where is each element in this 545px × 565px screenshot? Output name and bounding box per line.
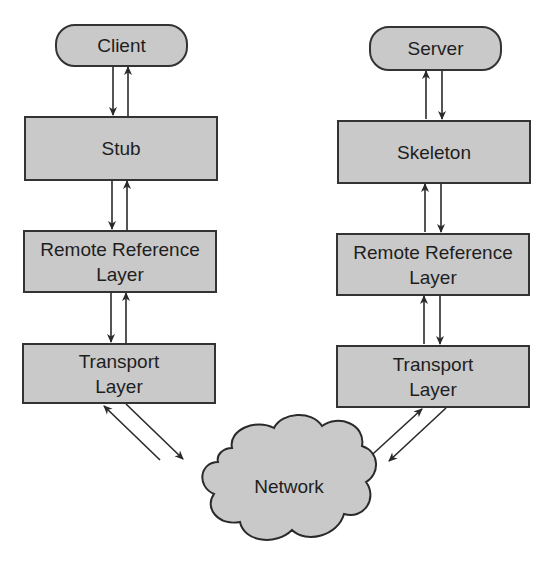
remote-reference-layer-client-label: Remote Reference Layer — [40, 237, 199, 287]
remote-reference-layer-server-label: Remote Reference Layer — [353, 240, 512, 290]
transport-layer-client-label: Transport Layer — [79, 349, 160, 399]
skeleton-node: Skeleton — [337, 120, 531, 184]
server-node: Server — [369, 26, 502, 71]
transport-layer-server-label: Transport Layer — [393, 352, 474, 402]
stub-label: Stub — [101, 136, 140, 161]
network-label: Network — [244, 476, 334, 498]
server-label: Server — [408, 36, 464, 61]
arrow-transport-left-to-network — [126, 404, 183, 459]
transport-layer-server-node: Transport Layer — [336, 345, 530, 408]
arrow-network-to-transport-left — [104, 406, 160, 460]
skeleton-label: Skeleton — [397, 140, 471, 165]
remote-reference-layer-client-node: Remote Reference Layer — [23, 230, 217, 293]
stub-node: Stub — [24, 116, 218, 181]
remote-reference-layer-server-node: Remote Reference Layer — [336, 233, 530, 296]
transport-layer-client-node: Transport Layer — [22, 343, 216, 404]
client-label: Client — [97, 33, 146, 58]
client-node: Client — [55, 24, 188, 67]
arrow-transport-right-to-network — [389, 408, 446, 461]
